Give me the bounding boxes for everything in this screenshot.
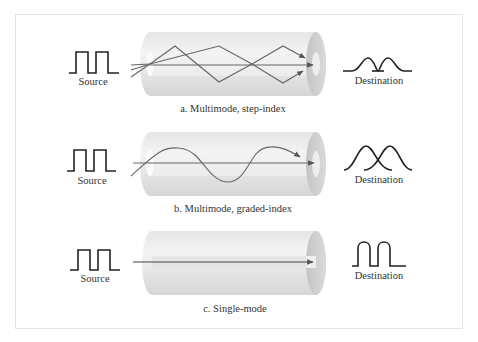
destination-label: Destination	[355, 76, 403, 87]
fiber-cylinder	[142, 231, 326, 295]
destination-pulse-icon	[344, 146, 412, 170]
source-label: Source	[78, 77, 107, 88]
source-label: Source	[77, 176, 106, 187]
fiber-cylinder	[140, 32, 326, 96]
fiber-core	[150, 52, 316, 76]
source-pulse-icon	[69, 52, 119, 73]
panel-c-single-mode	[70, 231, 406, 295]
source-pulse-icon	[67, 150, 116, 171]
panel-b-graded-index	[67, 132, 412, 196]
fiber-cylinder	[140, 132, 326, 196]
destination-pulse-icon	[343, 58, 412, 71]
panel-caption: a. Multimode, step-index	[180, 104, 286, 115]
panel-caption: c. Single-mode	[203, 304, 267, 315]
destination-label: Destination	[355, 175, 403, 186]
source-pulse-icon	[70, 250, 120, 270]
fiber-optic-modes-diagram	[0, 0, 478, 342]
source-label: Source	[80, 274, 109, 285]
destination-label: Destination	[355, 271, 403, 282]
panel-caption: b. Multimode, graded-index	[174, 204, 292, 215]
destination-pulse-icon	[352, 242, 406, 266]
